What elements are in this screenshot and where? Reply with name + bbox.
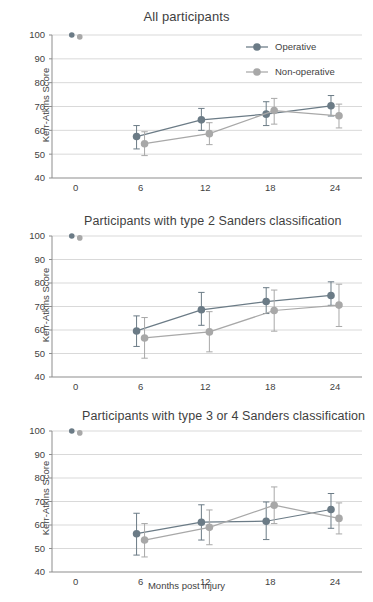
x-tick-label: 12 (200, 381, 211, 392)
data-point-marker (69, 233, 75, 239)
series-line (137, 509, 331, 533)
data-point-marker (69, 32, 75, 38)
data-point-marker (270, 107, 278, 115)
y-tick-label: 90 (34, 254, 45, 265)
x-tick-label: 12 (200, 182, 211, 193)
series-line (145, 505, 339, 540)
data-point-marker (335, 301, 343, 309)
y-tick-label: 40 (34, 172, 45, 183)
data-point-marker (198, 306, 206, 314)
x-tick-label: 0 (73, 182, 78, 193)
y-tick-label: 50 (34, 149, 45, 160)
chart-panel-sanders-type-3-or-4: Participants with type 3 or 4 Sanders cl… (0, 398, 373, 602)
data-point-marker (327, 102, 335, 110)
data-point-marker (198, 116, 206, 124)
data-point-marker (133, 530, 141, 538)
legend-label: Non-operative (275, 66, 335, 77)
data-point-marker (77, 235, 83, 241)
data-point-marker (133, 327, 141, 335)
plot-area: 40506070809010006121824 (0, 398, 373, 598)
y-tick-label: 60 (34, 324, 45, 335)
data-point-marker (141, 140, 149, 148)
data-point-marker (69, 428, 75, 434)
data-point-marker (335, 515, 343, 523)
y-tick-label: 50 (34, 348, 45, 359)
x-tick-label: 18 (265, 182, 276, 193)
series-line (137, 106, 331, 137)
y-tick-label: 100 (29, 29, 45, 40)
y-tick-label: 50 (34, 543, 45, 554)
y-tick-label: 60 (34, 519, 45, 530)
chart-panel-sanders-type-2: Participants with type 2 Sanders classif… (0, 200, 373, 398)
x-tick-label: 0 (73, 381, 78, 392)
data-point-marker (327, 292, 335, 300)
data-point-marker (77, 430, 83, 436)
figure-root: All participants Kerr-Atkins Score 40506… (0, 0, 373, 602)
y-tick-label: 40 (34, 371, 45, 382)
x-tick-label: 6 (138, 182, 143, 193)
y-tick-label: 80 (34, 472, 45, 483)
data-point-marker (206, 328, 214, 336)
x-tick-label: 24 (330, 381, 341, 392)
chart-svg: 40506070809010006121824 (0, 200, 373, 400)
y-tick-label: 70 (34, 101, 45, 112)
chart-svg: 40506070809010006121824 (0, 398, 373, 598)
y-tick-label: 90 (34, 53, 45, 64)
data-point-marker (141, 536, 149, 544)
data-point-marker (133, 133, 141, 141)
y-tick-label: 60 (34, 125, 45, 136)
data-point-marker (262, 298, 270, 306)
data-point-marker (77, 34, 83, 40)
data-point-marker (206, 130, 214, 138)
y-tick-label: 90 (34, 449, 45, 460)
x-tick-label: 18 (265, 381, 276, 392)
y-tick-label: 40 (34, 566, 45, 577)
data-point-marker (270, 307, 278, 315)
y-tick-label: 70 (34, 496, 45, 507)
data-point-marker (141, 334, 149, 342)
y-tick-label: 100 (29, 425, 45, 436)
chart-panel-all-participants: All participants Kerr-Atkins Score 40506… (0, 0, 373, 200)
legend-label: Operative (275, 41, 316, 52)
y-tick-label: 70 (34, 301, 45, 312)
data-point-marker (270, 501, 278, 509)
y-tick-label: 80 (34, 77, 45, 88)
x-tick-label: 6 (138, 381, 143, 392)
data-point-marker (206, 524, 214, 532)
chart-svg: 40506070809010006121824OperativeNon-oper… (0, 0, 373, 200)
data-point-marker (198, 518, 206, 526)
legend-marker (253, 68, 261, 76)
series-line (137, 295, 331, 330)
x-axis-label: Months post injury (0, 580, 373, 591)
series-line (145, 305, 339, 338)
plot-area: 40506070809010006121824OperativeNon-oper… (0, 0, 373, 200)
data-point-marker (335, 112, 343, 120)
legend-marker (253, 43, 261, 51)
y-tick-label: 100 (29, 230, 45, 241)
x-tick-label: 24 (330, 182, 341, 193)
plot-area: 40506070809010006121824 (0, 200, 373, 400)
y-tick-label: 80 (34, 277, 45, 288)
data-point-marker (327, 506, 335, 514)
data-point-marker (262, 517, 270, 525)
